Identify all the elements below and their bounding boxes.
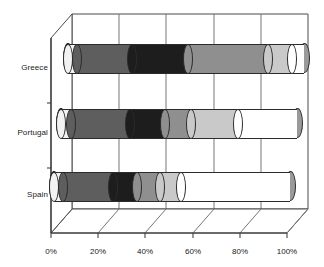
bar-segment xyxy=(188,44,268,74)
bar-segment xyxy=(238,109,297,139)
x-axis-tick-label-40: 40% xyxy=(128,247,162,256)
bar-segment xyxy=(77,44,131,74)
bar-segment xyxy=(71,109,130,139)
bar-segment xyxy=(63,172,113,202)
bar-segment xyxy=(132,44,189,74)
y-axis-label-portugal: Portugal xyxy=(0,128,48,137)
bar-segment xyxy=(191,109,238,139)
bar-greece xyxy=(68,44,304,74)
bar-spain xyxy=(54,172,290,202)
x-axis-tick-label-60: 60% xyxy=(176,247,210,256)
bar-segment xyxy=(181,172,290,202)
bar-segment xyxy=(292,44,304,74)
x-axis-tick-label-20: 20% xyxy=(81,247,115,256)
x-axis-tick-label-80: 80% xyxy=(223,247,257,256)
x-axis-tick-label-100: 100% xyxy=(270,247,304,256)
y-axis-label-spain: Spain xyxy=(0,190,48,199)
bar-portugal xyxy=(61,109,297,139)
chart-floor xyxy=(51,209,308,233)
x-axis-tick-label-0: 0% xyxy=(34,247,68,256)
y-axis-label-greece: Greece xyxy=(0,63,48,72)
stacked-cylinder-chart: Greece Portugal Spain 0% 20% 40% 60% 80%… xyxy=(0,0,324,267)
